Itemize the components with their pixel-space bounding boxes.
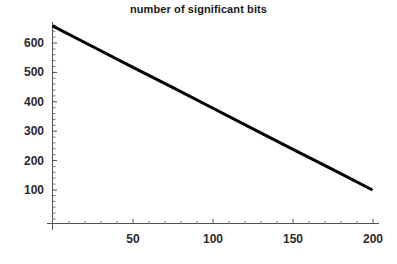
y-axis-major-ticks	[53, 43, 58, 190]
y-tick-label-400: 400	[24, 95, 44, 109]
x-axis-major-ticks	[133, 219, 373, 224]
y-tick-label-100: 100	[24, 183, 44, 197]
y-tick-label-600: 600	[24, 36, 44, 50]
x-tick-label-100: 100	[203, 232, 223, 246]
y-tick-label-300: 300	[24, 124, 44, 138]
chart-container: number of significant bits	[0, 0, 397, 264]
data-line-significant-bits	[53, 26, 373, 190]
x-tick-label-150: 150	[283, 232, 303, 246]
y-tick-label-200: 200	[24, 154, 44, 168]
y-tick-label-500: 500	[24, 65, 44, 79]
plot-area: 600 500 400 300 200 100 50 100 150 200	[0, 0, 397, 264]
x-tick-label-200: 200	[363, 232, 383, 246]
x-tick-label-50: 50	[126, 232, 140, 246]
